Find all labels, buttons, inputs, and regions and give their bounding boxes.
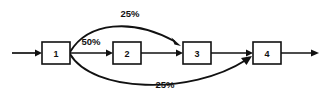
edge-1-4-arrowhead-icon [241,56,252,65]
edge-node-3-to-node-4 [211,50,253,57]
node-4-label: 4 [264,49,269,59]
edge-node-1-to-node-4-curve: 25% [70,54,252,90]
node-3[interactable]: 3 [183,42,211,64]
edge-label-top-25-percent: 25% [120,8,140,19]
edge-node-4-to-output [281,50,319,57]
edge-1-3-arrowhead-icon [172,38,182,47]
edge-output-arrowhead-icon [311,50,319,57]
node-2[interactable]: 2 [113,42,141,64]
node-1[interactable]: 1 [42,42,70,64]
edge-node-1-to-node-2: 50% [70,36,113,57]
edge-1-2-arrowhead-icon [106,50,113,57]
node-2-label: 2 [124,49,129,59]
edge-input-arrowhead-icon [35,50,42,57]
edge-input-to-node-1 [12,50,42,57]
edge-3-4-arrowhead-icon [246,50,253,57]
flow-diagram: 50% 25% 25% [0,0,330,97]
node-4[interactable]: 4 [253,42,281,64]
node-1-label: 1 [53,49,58,59]
node-3-label: 3 [194,49,199,59]
edge-label-bottom-25-percent: 25% [155,79,175,90]
flow-diagram-canvas: 50% 25% 25% [0,0,330,97]
edge-2-3-arrowhead-icon [176,50,183,57]
edge-node-2-to-node-3 [141,50,183,57]
